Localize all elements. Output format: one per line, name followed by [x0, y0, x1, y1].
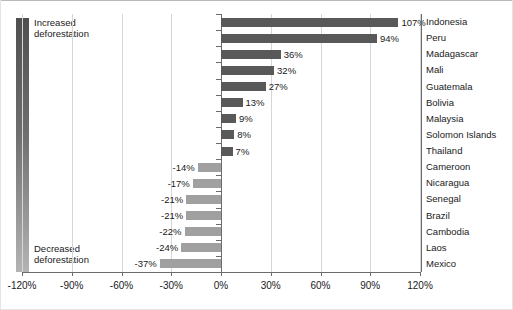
bar-value-label: -37%: [134, 259, 156, 268]
category-tick-mark: [216, 95, 221, 96]
category-tick-mark: [216, 224, 221, 225]
category-tick-mark: [216, 175, 221, 176]
category-tick-mark: [216, 111, 221, 112]
category-label-senegal: Senegal: [426, 194, 461, 204]
bar-solomon-islands: [221, 130, 234, 139]
category-label-thailand: Thailand: [426, 146, 462, 156]
gridline--60: [122, 14, 123, 272]
category-label-guatemala: Guatemala: [426, 82, 472, 92]
category-tick-mark: [216, 46, 221, 47]
x-tick-label: -120%: [8, 280, 37, 292]
bar-nicaragua: [193, 179, 221, 188]
bar-value-label: 13%: [246, 98, 265, 107]
category-label-mali: Mali: [426, 65, 443, 75]
x-tick-mark: [271, 272, 272, 276]
category-label-cameroon: Cameroon: [426, 162, 470, 172]
x-tick-mark: [321, 272, 322, 276]
bar-senegal: [186, 195, 221, 204]
bar-value-label: -14%: [173, 163, 195, 172]
bar-value-label: -17%: [168, 179, 190, 188]
x-tick-label: -60%: [110, 280, 133, 292]
category-label-peru: Peru: [426, 33, 446, 43]
bar-cameroon: [198, 163, 221, 172]
bar-malaysia: [221, 114, 236, 123]
category-axis-divider: [421, 14, 422, 272]
x-tick-label: 60%: [310, 280, 330, 292]
category-label-solomon-islands: Solomon Islands: [426, 130, 496, 140]
category-tick-mark: [216, 191, 221, 192]
bar-value-label: -24%: [156, 243, 178, 252]
frame-border-left: [0, 0, 1, 310]
x-tick-mark: [72, 272, 73, 276]
gridline--120: [22, 14, 23, 272]
bar-mali: [221, 66, 274, 75]
bar-value-label: -21%: [161, 195, 183, 204]
x-tick-mark: [370, 272, 371, 276]
category-label-laos: Laos: [426, 243, 447, 253]
x-tick-mark: [221, 272, 222, 276]
category-label-indonesia: Indonesia: [426, 17, 467, 27]
bar-value-label: 27%: [269, 82, 288, 91]
bar-value-label: 9%: [239, 114, 253, 123]
x-tick-label: -90%: [60, 280, 83, 292]
bar-value-label: 8%: [237, 130, 251, 139]
category-tick-mark: [216, 14, 221, 15]
deforestation-change-chart: Increased deforestation Decreased defore…: [0, 0, 513, 310]
category-tick-mark: [216, 30, 221, 31]
category-label-brazil: Brazil: [426, 211, 450, 221]
bar-value-label: -21%: [161, 211, 183, 220]
bar-value-label: 107%: [401, 18, 425, 27]
x-tick-mark: [171, 272, 172, 276]
gridline--90: [72, 14, 73, 272]
bar-value-label: 94%: [380, 34, 399, 43]
category-tick-mark: [216, 159, 221, 160]
x-tick-mark: [122, 272, 123, 276]
category-tick-mark: [216, 256, 221, 257]
bar-thailand: [221, 147, 233, 156]
gridline-60: [321, 14, 322, 272]
category-label-cambodia: Cambodia: [426, 227, 469, 237]
category-tick-mark: [216, 143, 221, 144]
x-tick-label: 120%: [407, 280, 433, 292]
bar-value-label: 36%: [284, 50, 303, 59]
category-tick-mark: [216, 79, 221, 80]
bar-cambodia: [185, 227, 221, 236]
x-tick-label: -30%: [160, 280, 183, 292]
category-label-bolivia: Bolivia: [426, 98, 454, 108]
category-tick-mark: [216, 240, 221, 241]
category-label-madagascar: Madagascar: [426, 49, 478, 59]
category-tick-mark: [216, 62, 221, 63]
x-tick-mark: [22, 272, 23, 276]
x-tick-label: 30%: [261, 280, 281, 292]
bar-bolivia: [221, 98, 243, 107]
bar-value-label: 32%: [277, 66, 296, 75]
bar-guatemala: [221, 82, 266, 91]
frame-border-top: [0, 0, 513, 1]
bar-value-label: 7%: [236, 147, 250, 156]
bar-value-label: -22%: [159, 227, 181, 236]
category-label-mexico: Mexico: [426, 259, 456, 269]
bar-mexico: [160, 259, 221, 268]
category-label-malaysia: Malaysia: [426, 114, 464, 124]
category-tick-mark: [216, 208, 221, 209]
x-tick-label: 90%: [360, 280, 380, 292]
category-label-nicaragua: Nicaragua: [426, 178, 469, 188]
gridline-90: [370, 14, 371, 272]
plot-area: 107%94%36%32%27%13%9%8%7%-14%-17%-21%-21…: [22, 14, 420, 272]
bar-brazil: [186, 211, 221, 220]
bar-peru: [221, 34, 377, 43]
x-tick-label: 0%: [214, 280, 228, 292]
bar-madagascar: [221, 50, 281, 59]
x-tick-mark: [420, 272, 421, 276]
bar-laos: [181, 243, 221, 252]
bar-indonesia: [221, 18, 398, 27]
category-tick-mark: [216, 127, 221, 128]
